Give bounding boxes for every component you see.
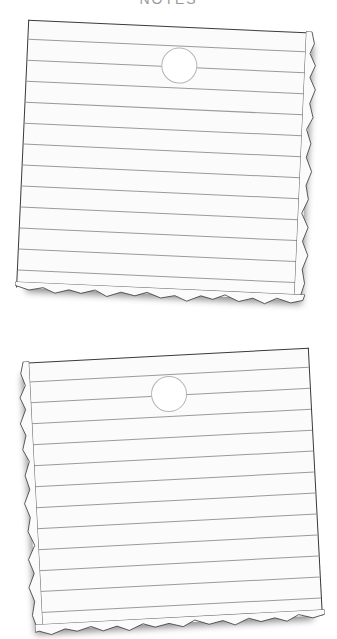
ruled-line [30, 472, 315, 488]
note-paper-2 [23, 348, 323, 631]
ruled-line [25, 123, 308, 137]
ruled-line [32, 514, 317, 530]
ruled-line [29, 451, 314, 467]
ruled-line [26, 81, 309, 95]
ruled-line [20, 228, 303, 242]
ruled-line [25, 102, 308, 116]
ruled-line [31, 493, 316, 509]
top-caption: NOTES [0, 0, 337, 7]
ruled-line [21, 207, 304, 221]
ruled-line [19, 249, 302, 263]
ruled-line [23, 165, 306, 179]
ruled-line [24, 144, 307, 158]
note-paper-1 [16, 20, 312, 301]
ruled-line [35, 576, 320, 592]
ruled-line [18, 269, 301, 283]
ruled-line [33, 534, 318, 550]
ruled-line [27, 430, 312, 446]
ruled-line [22, 186, 305, 200]
ruled-line [34, 555, 319, 571]
